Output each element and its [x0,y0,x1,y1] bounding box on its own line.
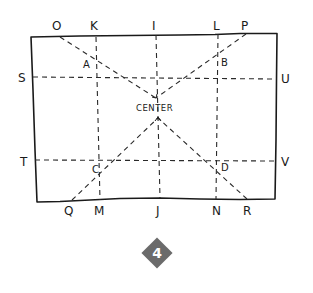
line-l-n [216,34,218,199]
label-m: M [94,204,104,218]
line-s-u [33,77,276,79]
label-p: P [241,19,248,33]
label-r: R [243,204,251,218]
label-s: S [18,71,26,85]
label-j: J [155,204,160,218]
label-a: A [83,59,90,70]
label-c: C [92,164,99,175]
line-q-center [72,118,158,200]
label-i: I [152,19,156,33]
line-o-center [60,37,156,98]
label-b: B [221,57,228,68]
label-l: L [213,19,220,33]
label-v: V [281,155,290,169]
diagram-canvas: O K I L P S T U V Q M J N R A B C D CENT… [0,0,313,293]
label-q: Q [64,204,73,218]
label-d: D [221,162,229,173]
line-r-center [158,118,247,199]
label-o: O [52,19,61,33]
label-n: N [212,204,221,218]
line-p-center [156,34,246,98]
step-badge: 4 [141,237,172,268]
label-k: K [90,19,99,33]
outer-rectangle [31,34,277,203]
label-t: T [19,155,28,169]
step-badge-number: 4 [152,245,162,261]
line-t-v [35,160,275,161]
label-u: U [281,72,290,86]
label-center: CENTER [136,103,173,113]
